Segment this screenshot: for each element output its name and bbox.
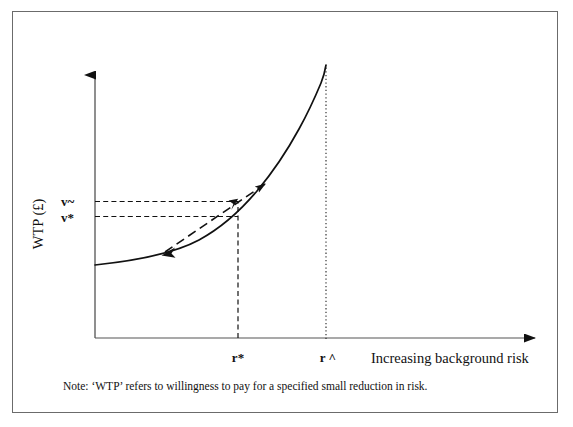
chord-arrow-group	[162, 184, 266, 258]
chord-arrow-head-at-r-star	[226, 196, 241, 210]
figure-frame: v~ v* r* r ^ WTP (£) Increasing backgrou…	[12, 11, 558, 413]
guide-lines-group	[95, 65, 326, 339]
y-axis-title: WTP (£)	[30, 199, 47, 250]
x-axis-title: Increasing background risk	[371, 350, 530, 366]
y-tick-label-v-star: v*	[61, 210, 74, 225]
figure-note: Note: ‘WTP’ refers to willingness to pay…	[63, 380, 428, 393]
x-tick-label-r-star: r*	[232, 350, 244, 365]
wtp-curve	[95, 65, 326, 265]
x-tick-label-r-hat: r ^	[320, 350, 336, 365]
chord-arrow	[165, 184, 265, 252]
tick-labels-group: v~ v* r* r ^	[61, 194, 336, 365]
y-tick-label-v-tilde: v~	[61, 194, 75, 209]
axis-titles-group: WTP (£) Increasing background risk	[30, 199, 530, 366]
wtp-background-risk-chart: v~ v* r* r ^ WTP (£) Increasing backgrou…	[13, 12, 559, 414]
axes-group	[95, 75, 535, 338]
curve-group	[95, 65, 326, 265]
